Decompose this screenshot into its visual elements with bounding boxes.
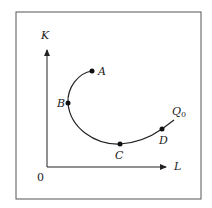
point-c [118, 142, 123, 147]
point-b-label: B [56, 97, 65, 110]
point-d-label: D [158, 134, 168, 147]
isoquant-diagram: K L 0 A B C D Q0 [0, 0, 212, 208]
curve-label: Q0 [172, 105, 186, 119]
point-b [66, 101, 71, 106]
point-c-label: C [115, 149, 124, 162]
x-axis-label: L [173, 160, 181, 173]
point-d [160, 127, 165, 132]
y-axis-label: K [40, 29, 50, 42]
point-a-label: A [97, 65, 106, 78]
origin-label: 0 [37, 171, 44, 184]
point-a [90, 69, 95, 74]
